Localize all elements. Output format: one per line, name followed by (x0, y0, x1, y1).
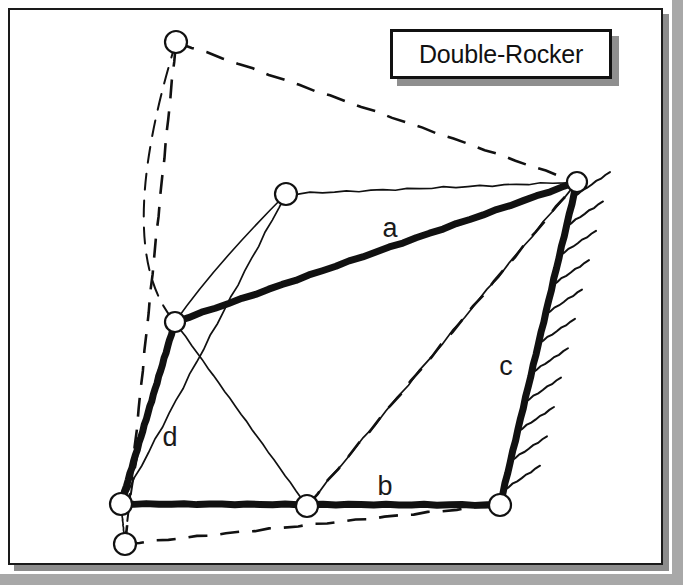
linkage-diagram (0, 0, 683, 585)
link-d-left-rocker (121, 322, 175, 504)
alt-pos-mid-joint (275, 183, 297, 205)
ground-hatching-group (504, 172, 610, 490)
link-label-a: a (382, 213, 397, 244)
ground-left-pivot (110, 493, 132, 515)
alt-pos-bottom-joint (296, 495, 318, 517)
alt-pos-lower-left-joint (114, 533, 136, 555)
title-box: Double-Rocker (390, 29, 612, 79)
mid-pos-link-a (286, 182, 577, 194)
alt-pos-top-joint (165, 31, 187, 53)
revolute-joints-group (110, 31, 587, 555)
coupler-left-joint (165, 312, 185, 332)
title-box-label: Double-Rocker (419, 40, 583, 69)
coupler-right-joint (567, 172, 587, 192)
link-label-c: c (499, 351, 513, 382)
link-a-coupler (175, 182, 577, 322)
link-label-b: b (377, 471, 392, 502)
ground-right-pivot (489, 494, 511, 516)
link-label-d: d (162, 422, 177, 453)
figure-root: Double-Rocker abcd (0, 0, 683, 585)
alt-coupler-tie (175, 322, 307, 506)
